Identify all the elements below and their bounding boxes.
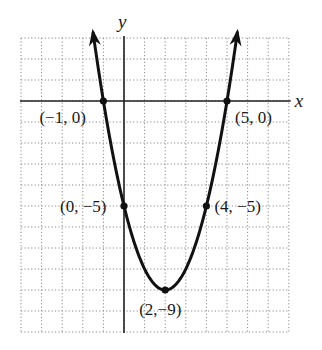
y-axis-label: y [116,11,127,32]
grid-lines [21,38,289,332]
point-label: (2,−9) [139,300,181,319]
point-marker [120,202,127,209]
x-axis-label: x [294,90,304,111]
parabola-graph: x y (−1, 0)(5, 0)(0, −5)(4, −5)(2,−9) [0,0,322,350]
point-label: (0, −5) [60,197,106,216]
point-marker [223,97,230,104]
point-label: (5, 0) [235,108,272,127]
graph-container: x y (−1, 0)(5, 0)(0, −5)(4, −5)(2,−9) [0,0,322,350]
point-marker [203,202,210,209]
parabola-curve [89,29,241,290]
point-marker [100,97,107,104]
point-label: (4, −5) [214,197,260,216]
point-marker [162,286,169,293]
point-label: (−1, 0) [39,108,85,127]
